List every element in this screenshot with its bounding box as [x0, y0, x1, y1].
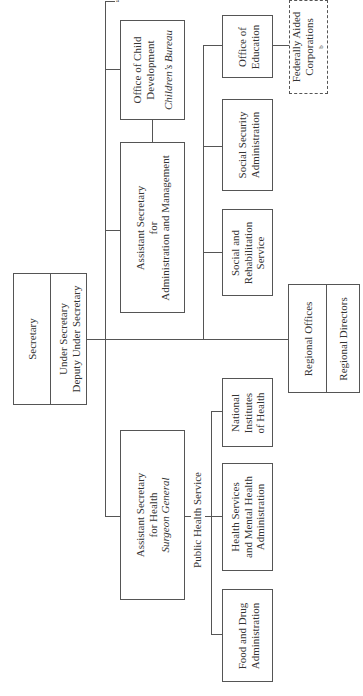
srs-label: Social and Rehabilitation Service: [229, 221, 267, 283]
hsmha-connector: [205, 516, 222, 517]
phs-trunk-line: [211, 411, 212, 634]
top-footnote-line: [105, 1, 115, 2]
regional-offices-label: Regional Offices: [301, 301, 314, 376]
health-label: Assistant Secretary for Health Surgeon G…: [134, 473, 172, 558]
ssa-label: Social Security Administration: [235, 112, 260, 179]
child-development-box: Office of Child Development Children’s B…: [120, 20, 185, 120]
secretary-title: Secretary: [26, 318, 39, 360]
srs-box: Social and Rehabilitation Service: [222, 209, 273, 296]
under-secretary-label: Under Secretary Deputy Under Secretary: [56, 286, 81, 393]
education-label: Office of Education: [235, 24, 260, 69]
fed-aided-connector: [273, 45, 289, 46]
ssa-connector: [203, 146, 222, 147]
left-trunk-line: [105, 1, 106, 517]
hsmha-label: Health Services and Mental Health Admini…: [229, 476, 267, 558]
footnote-a-marker: a: [116, 0, 119, 4]
admin-child-link: [152, 120, 153, 142]
agencies-trunk-line: [203, 45, 204, 340]
education-box: Office of Education: [222, 15, 273, 78]
hsmha-box: Health Services and Mental Health Admini…: [222, 463, 273, 571]
fda-box: Food and Drug Administration: [222, 589, 273, 682]
admin-management-box: Assistant Secretary for Administration a…: [120, 142, 185, 313]
regional-directors-label: Regional Directors: [337, 297, 350, 380]
admin-management-label: Assistant Secretary for Administration a…: [134, 155, 172, 300]
education-connector: [203, 45, 222, 46]
phs-label-wrap: Public Health Service: [190, 470, 204, 570]
health-connector: [105, 516, 120, 517]
child-development-label: Office of Child Development Children’s B…: [131, 30, 175, 110]
srs-connector: [203, 252, 222, 253]
ssa-box: Social Security Administration: [222, 99, 273, 191]
regional-box: Regional Offices Regional Directors: [288, 284, 360, 393]
fda-connector: [211, 634, 222, 635]
child-dev-connector: [105, 69, 120, 70]
secretary-box: Secretary Under Secretary Deputy Under S…: [13, 273, 87, 405]
health-box: Assistant Secretary for Health Surgeon G…: [120, 430, 185, 600]
admin-connector: [105, 230, 120, 231]
nih-label: National Institutes of Health: [229, 392, 267, 433]
federally-aided-box: Federally Aided Corporationsb: [289, 0, 328, 94]
federally-aided-label: Federally Aided Corporationsb: [290, 12, 328, 83]
fda-label: Food and Drug Administration: [235, 602, 260, 669]
nih-connector: [211, 411, 222, 412]
nih-box: National Institutes of Health: [222, 378, 273, 447]
secretary-main-connector: [87, 339, 288, 340]
public-health-service-label: Public Health Service: [191, 472, 204, 568]
